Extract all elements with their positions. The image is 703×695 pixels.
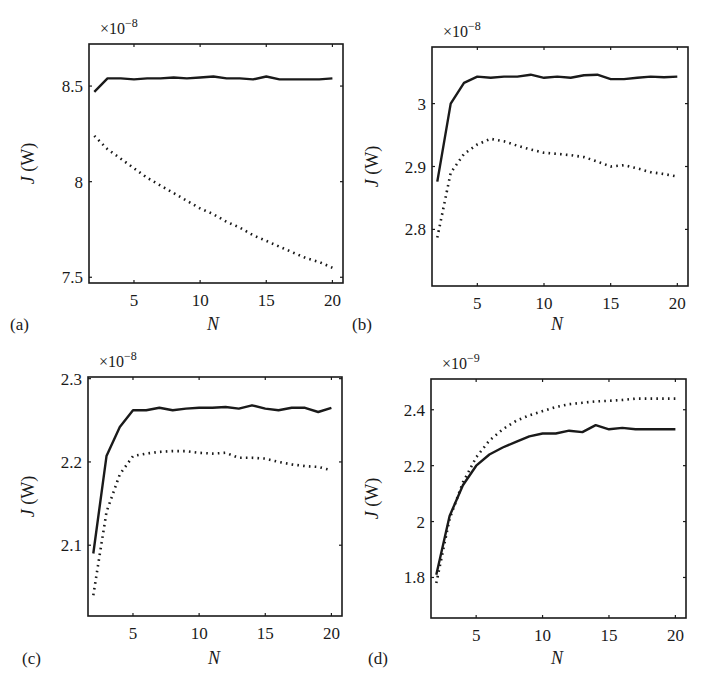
panel-label: (c) bbox=[22, 649, 41, 668]
y-scale-exponent: ×10−8 bbox=[443, 19, 481, 40]
y-tick-label: 8 bbox=[75, 173, 84, 192]
x-tick-label: 20 bbox=[324, 291, 341, 310]
y-axis-label: J (W) bbox=[18, 476, 39, 517]
series-solid-line bbox=[436, 425, 675, 575]
axes-frame bbox=[88, 377, 342, 616]
panel-b: 51015202.82.93×10−8J (W)N(b) bbox=[352, 19, 688, 334]
panel-a: 51015207.588.5×10−8J (W)N(a) bbox=[10, 16, 343, 334]
x-tick-label: 15 bbox=[258, 291, 275, 310]
y-tick-label: 8.5 bbox=[62, 77, 83, 96]
x-tick-label: 5 bbox=[472, 626, 481, 645]
series-solid-line bbox=[93, 405, 331, 553]
x-tick-label: 5 bbox=[473, 294, 482, 313]
panel-label: (b) bbox=[352, 315, 372, 334]
y-tick-label: 7.5 bbox=[62, 268, 83, 287]
series-dotted-line bbox=[436, 399, 675, 583]
y-tick-label: 1.8 bbox=[404, 568, 425, 587]
axes-frame bbox=[432, 47, 688, 286]
series-dotted-line bbox=[437, 139, 677, 238]
y-axis-label: J (W) bbox=[18, 143, 39, 184]
panel-label: (d) bbox=[368, 649, 388, 668]
y-tick-label: 2 bbox=[417, 513, 426, 532]
x-tick-label: 10 bbox=[191, 624, 208, 643]
y-tick-label: 2.2 bbox=[404, 457, 425, 476]
y-scale-exponent: ×10−8 bbox=[99, 349, 137, 370]
y-tick-label: 2.9 bbox=[405, 158, 426, 177]
x-tick-label: 20 bbox=[669, 294, 686, 313]
panel-label: (a) bbox=[10, 315, 29, 334]
series-solid-line bbox=[94, 77, 332, 92]
figure-grid: 51015207.588.5×10−8J (W)N(a) 51015202.82… bbox=[0, 0, 703, 695]
x-tick-label: 5 bbox=[130, 291, 139, 310]
x-tick-label: 10 bbox=[534, 626, 551, 645]
y-axis-label: J (W) bbox=[362, 478, 383, 519]
series-solid-line bbox=[437, 75, 677, 182]
x-axis-label: N bbox=[207, 648, 221, 668]
y-tick-label: 2.8 bbox=[405, 220, 426, 239]
x-tick-label: 10 bbox=[192, 291, 209, 310]
x-tick-label: 20 bbox=[667, 626, 684, 645]
x-axis-label: N bbox=[550, 648, 564, 668]
axes-frame bbox=[431, 379, 686, 618]
x-tick-label: 20 bbox=[323, 624, 340, 643]
panel-c: 51015202.12.22.3×10−8J (W)N(c) bbox=[18, 349, 342, 668]
y-axis-label: J (W) bbox=[362, 146, 383, 187]
y-tick-label: 3 bbox=[418, 95, 427, 114]
x-axis-label: N bbox=[206, 314, 220, 334]
x-axis-label: N bbox=[550, 314, 564, 334]
y-tick-label: 2.2 bbox=[61, 453, 82, 472]
x-tick-label: 15 bbox=[257, 624, 274, 643]
x-tick-label: 15 bbox=[600, 626, 617, 645]
series-dotted-line bbox=[93, 451, 331, 595]
y-tick-label: 2.4 bbox=[404, 401, 426, 420]
series-dotted-line bbox=[94, 136, 332, 268]
y-scale-exponent: ×10−9 bbox=[442, 351, 480, 372]
y-tick-label: 2.3 bbox=[61, 370, 82, 389]
y-scale-exponent: ×10−8 bbox=[100, 16, 138, 37]
x-tick-label: 5 bbox=[129, 624, 138, 643]
x-tick-label: 10 bbox=[536, 294, 553, 313]
panel-d: 51015201.822.22.4×10−9J (W)N(d) bbox=[362, 351, 686, 668]
x-tick-label: 15 bbox=[602, 294, 619, 313]
y-tick-label: 2.1 bbox=[61, 536, 82, 555]
